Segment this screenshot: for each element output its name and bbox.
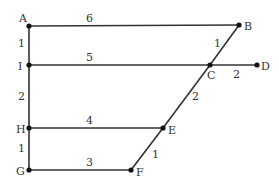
- edge-weight-label: 5: [86, 51, 93, 64]
- edge-weight-label: 2: [192, 90, 199, 103]
- node-label: F: [136, 166, 144, 179]
- node-G: [26, 167, 31, 172]
- edge-weight-label: 1: [152, 148, 159, 161]
- node-I: [26, 62, 31, 67]
- edge-weight-label: 4: [86, 114, 93, 127]
- edge-weight-label: 3: [86, 156, 93, 169]
- edge-weight-label: 2: [18, 90, 25, 103]
- node-label: C: [207, 69, 215, 82]
- edge-weight-label: 1: [214, 37, 221, 50]
- node-label: I: [18, 60, 22, 73]
- node-E: [160, 125, 165, 130]
- edge-weight-label: 1: [18, 142, 25, 155]
- node-F: [128, 167, 133, 172]
- node-B: [236, 22, 241, 27]
- node-label: A: [18, 12, 28, 25]
- node-label: E: [168, 124, 176, 137]
- edge-weight-label: 6: [86, 12, 93, 25]
- edge-weight-label: 2: [233, 68, 240, 81]
- node-H: [26, 125, 31, 130]
- weighted-graph-diagram: 65243121121ABICDHEGF: [0, 0, 279, 186]
- edge-C-E: [163, 65, 210, 128]
- node-label: D: [261, 60, 270, 73]
- node-A: [26, 23, 31, 28]
- node-C: [207, 62, 212, 67]
- node-D: [254, 62, 259, 67]
- edge-A-B: [29, 25, 239, 26]
- edge-weight-label: 1: [18, 37, 25, 50]
- node-label: H: [16, 123, 26, 136]
- node-label: B: [244, 20, 252, 33]
- node-label: G: [16, 165, 25, 178]
